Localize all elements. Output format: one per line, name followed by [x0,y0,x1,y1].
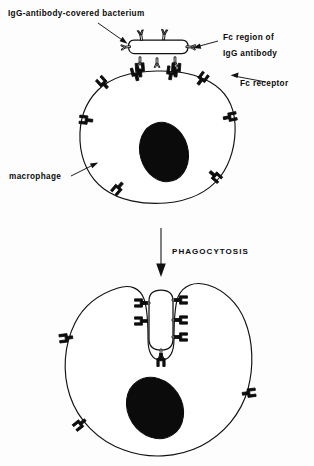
bacterium-bottom [149,290,173,350]
bacterium-top [129,40,189,54]
label-macrophage: macrophage [9,172,61,181]
label-phagocytosis: PHAGOCYTOSIS [172,247,249,256]
label-fc-region-line1: Fc region of [223,33,274,42]
label-fc-receptor: Fc receptor [240,79,289,88]
label-fc-region-line2: IgG antibody [223,49,277,58]
label-bacterium: IgG-antibody-covered bacterium [8,9,145,18]
phagocytosis-diagram: IgG-antibody-covered bacterium Fc region… [0,0,314,466]
